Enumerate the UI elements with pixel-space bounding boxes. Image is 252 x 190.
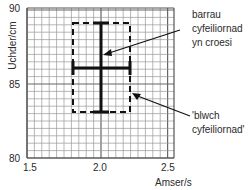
x-axis-label: Amser/s <box>155 177 192 188</box>
annotation-crossbars-line-3: yn croesi <box>192 37 232 48</box>
y-tick-85: 85 <box>9 79 20 90</box>
annotation-crossbars-line-1: barrau <box>192 9 221 20</box>
annotation-box-line-1: 'blwch <box>192 110 219 121</box>
y-tick-80: 80 <box>9 153 20 164</box>
y-tick-90: 90 <box>9 3 20 14</box>
annotation-crossbars-line-2: cyfeiliornad <box>192 23 243 34</box>
annotation-box-line-2: cyfeiliornad' <box>192 124 245 135</box>
x-tick-2-5: 2.5 <box>161 162 175 173</box>
x-tick-1-5: 1.5 <box>23 162 37 173</box>
y-axis-label: Uchder/cm <box>7 16 18 76</box>
x-tick-2-0: 2.0 <box>93 162 107 173</box>
